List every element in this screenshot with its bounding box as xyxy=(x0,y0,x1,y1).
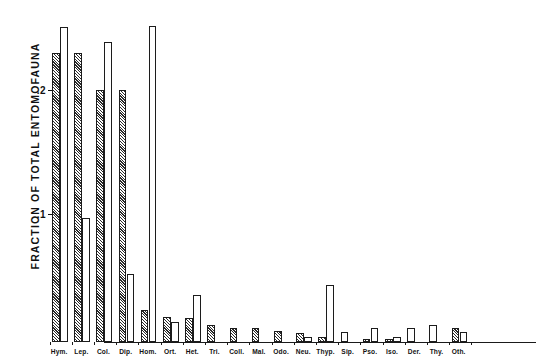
bar-group xyxy=(74,6,90,336)
x-axis-label: Ort. xyxy=(158,348,182,355)
x-tick-mark xyxy=(72,342,73,345)
x-tick-mark xyxy=(94,342,95,345)
plot-area: .2 .1 Hym.Lep.Col.Dip.Hom.Ort.Het.Tri.Co… xyxy=(56,6,476,336)
x-axis-label: Thy. xyxy=(424,348,448,355)
x-axis-line xyxy=(104,342,536,343)
bar-hatched xyxy=(230,328,238,342)
bar-group xyxy=(185,6,201,336)
bar-open xyxy=(82,218,90,342)
x-axis-label: Coll. xyxy=(225,348,249,355)
x-axis-label: Sip. xyxy=(336,348,360,355)
bar-open xyxy=(326,285,334,342)
bar-group xyxy=(119,6,135,336)
bar-hatched xyxy=(274,331,282,342)
bar-open xyxy=(171,322,179,342)
bar-group xyxy=(385,6,401,336)
x-axis-label: Mal. xyxy=(247,348,271,355)
bar-open xyxy=(60,27,68,342)
y-tick-0.2: .2 xyxy=(0,85,54,97)
bar-hatched xyxy=(119,90,127,342)
bar-hatched xyxy=(185,318,193,342)
x-axis-label: Hom. xyxy=(136,348,160,355)
y-tick-0.2-label: .2 xyxy=(37,85,46,96)
x-axis-label: Odo. xyxy=(269,348,293,355)
bar-group xyxy=(163,6,179,336)
bar-open xyxy=(429,325,437,342)
bar-group xyxy=(252,6,268,336)
y-axis-title: FRACTION OF TOTAL ENTOMOFAUNA xyxy=(29,16,41,296)
bar-group xyxy=(429,6,445,336)
y-tick-0.1: .1 xyxy=(0,209,54,221)
bar-group xyxy=(452,6,468,336)
bar-group xyxy=(207,6,223,336)
bar-group xyxy=(318,6,334,336)
x-axis-label: Dip. xyxy=(114,348,138,355)
bar-open xyxy=(460,332,468,342)
bar-hatched xyxy=(74,53,82,342)
x-axis-label: Der. xyxy=(402,348,426,355)
x-axis-label: Tri. xyxy=(202,348,226,355)
bar-open xyxy=(127,274,135,342)
bar-open xyxy=(371,328,379,342)
x-tick-mark xyxy=(50,342,51,345)
bar-hatched xyxy=(52,53,60,342)
bar-group xyxy=(341,6,357,336)
bar-open xyxy=(407,328,415,342)
bar-hatched xyxy=(141,310,149,342)
bar-hatched xyxy=(252,328,260,342)
x-axis-label: Pso. xyxy=(358,348,382,355)
bar-hatched xyxy=(452,328,460,342)
bar-hatched xyxy=(207,325,215,342)
bar-group xyxy=(296,6,312,336)
bar-group xyxy=(363,6,379,336)
bar-hatched xyxy=(296,333,304,342)
bar-group xyxy=(407,6,423,336)
bar-group xyxy=(96,6,112,336)
x-axis-label: Iso. xyxy=(380,348,404,355)
bar-group xyxy=(230,6,246,336)
x-axis-label: Oth. xyxy=(447,348,471,355)
bar-hatched xyxy=(163,317,171,342)
y-tick-0.1-label: .1 xyxy=(37,209,46,220)
bar-hatched xyxy=(96,90,104,342)
x-axis-label: Neu. xyxy=(291,348,315,355)
bar-open xyxy=(193,295,201,342)
x-axis-label: Het. xyxy=(180,348,204,355)
x-axis-label: Thyp. xyxy=(313,348,337,355)
bar-group xyxy=(274,6,290,336)
x-axis-label: Col. xyxy=(91,348,115,355)
bar-open xyxy=(149,26,157,342)
bar-open xyxy=(104,42,112,342)
x-axis-label: Hym. xyxy=(47,348,71,355)
bar-group xyxy=(52,6,68,336)
bar-group xyxy=(141,6,157,336)
x-axis-label: Lep. xyxy=(69,348,93,355)
bar-open xyxy=(341,332,349,342)
